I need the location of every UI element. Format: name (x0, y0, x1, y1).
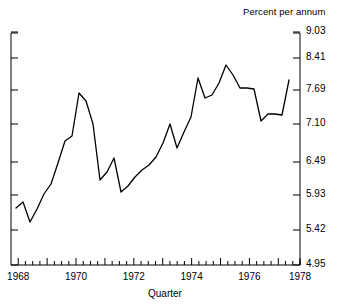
axis-frame (11, 33, 300, 265)
y-tick-label: 7.69 (306, 83, 325, 94)
series-line-quarterly-rate (16, 65, 289, 222)
x-tick-label: 1972 (118, 271, 150, 282)
y-tick-label: 6.49 (306, 155, 325, 166)
y-tick-label: 4.95 (306, 258, 325, 269)
x-tick-label: 1968 (2, 271, 34, 282)
x-axis-title: Quarter (148, 288, 182, 299)
y-tick-label: 5.42 (306, 223, 325, 234)
y-tick-label: 9.03 (306, 25, 325, 36)
chart-container: Percent per annum 9.038.417.697.106.495.… (0, 0, 347, 306)
chart-plot-area (0, 0, 347, 306)
x-tick-label: 1974 (176, 271, 208, 282)
x-tick-label: 1970 (60, 271, 92, 282)
x-tick-label: 1978 (284, 271, 316, 282)
y-tick-label: 5.93 (306, 188, 325, 199)
x-tick-marks (18, 258, 300, 265)
y-tick-marks (11, 32, 300, 265)
x-tick-label: 1976 (233, 271, 265, 282)
y-tick-label: 7.10 (306, 117, 325, 128)
y-tick-label: 8.41 (306, 51, 325, 62)
